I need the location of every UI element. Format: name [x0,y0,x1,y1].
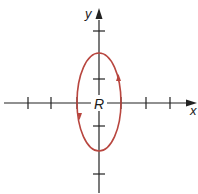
origin-label: R [94,96,104,112]
coordinate-diagram: y x R [0,0,198,194]
x-axis-label: x [189,103,197,118]
y-axis-label: y [84,6,93,21]
y-axis-arrow-icon [96,8,103,19]
